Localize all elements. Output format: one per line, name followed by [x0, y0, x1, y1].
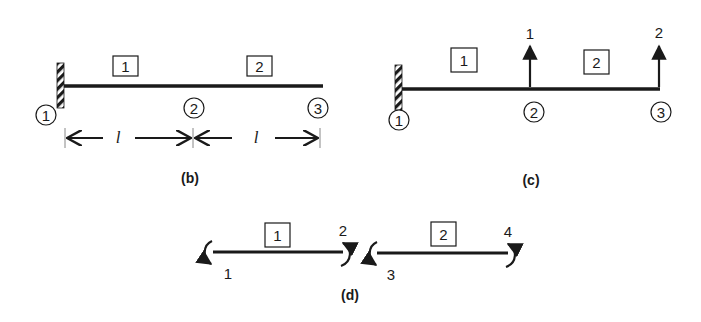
dimension-l-2: l [254, 128, 259, 147]
figure-b: 1 2 1 2 3 l l (b) [36, 56, 328, 186]
figure-d: 1 1 2 2 3 4 (d) [205, 222, 515, 303]
node-label-3: 3 [308, 98, 328, 118]
node-label-2: 2 [184, 98, 204, 118]
svg-text:2: 2 [190, 100, 198, 117]
svg-text:1: 1 [224, 265, 232, 282]
rotation-dof-1-icon: 1 [205, 241, 232, 282]
fixed-support-icon [57, 63, 64, 108]
svg-text:2: 2 [530, 104, 538, 121]
svg-text:3: 3 [387, 266, 395, 283]
node-label-2: 2 [524, 102, 544, 122]
element-label-2: 2 [431, 222, 456, 246]
dimension-l-1: l [116, 128, 121, 147]
rotation-dof-3-icon: 3 [370, 242, 395, 283]
svg-text:1: 1 [273, 227, 281, 244]
svg-text:3: 3 [657, 104, 665, 121]
svg-text:2: 2 [655, 24, 663, 41]
beam-fem-diagram: 1 2 1 2 3 l l (b) [0, 0, 701, 322]
rotation-dof-2-icon: 2 [339, 222, 350, 266]
svg-text:1: 1 [121, 58, 129, 75]
caption-c: (c) [522, 172, 539, 188]
svg-text:1: 1 [395, 112, 403, 129]
fixed-support-icon [395, 65, 402, 110]
element-label-1: 1 [113, 56, 138, 76]
caption-d: (d) [341, 287, 359, 303]
node-label-1: 1 [389, 110, 409, 130]
element-label-1: 1 [451, 48, 477, 72]
element-label-2: 2 [584, 50, 609, 74]
svg-text:2: 2 [592, 54, 600, 71]
caption-b: (b) [181, 170, 199, 186]
svg-text:1: 1 [526, 25, 534, 42]
dimension-lines: l l [65, 128, 320, 148]
svg-text:3: 3 [314, 100, 322, 117]
svg-text:2: 2 [255, 58, 263, 75]
dof-arrow-2: 2 [655, 24, 663, 87]
svg-text:2: 2 [439, 226, 447, 243]
figure-c: 1 2 1 2 1 2 3 (c) [389, 24, 671, 188]
element-label-1: 1 [265, 223, 290, 247]
rotation-dof-4-icon: 4 [504, 223, 515, 267]
dof-arrow-1: 1 [526, 25, 534, 87]
node-label-3: 3 [651, 102, 671, 122]
svg-text:1: 1 [42, 107, 50, 124]
svg-text:1: 1 [460, 52, 468, 69]
element-label-2: 2 [247, 56, 272, 76]
svg-text:4: 4 [504, 223, 512, 240]
svg-text:2: 2 [339, 222, 347, 239]
node-label-1: 1 [36, 105, 56, 125]
